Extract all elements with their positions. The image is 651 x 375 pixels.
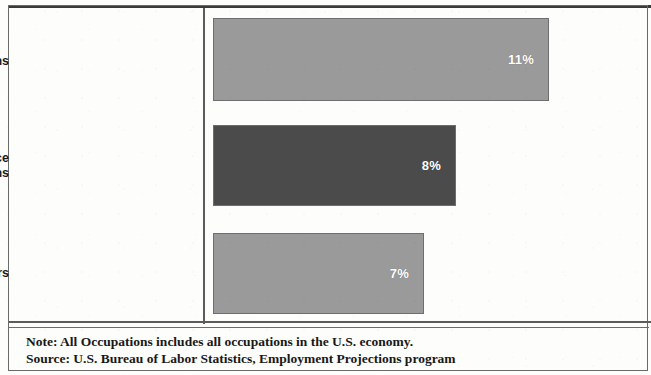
bar-protective-service-occupations[interactable]: 8%	[213, 125, 456, 206]
chart-notes: Note: All Occupations includes all occup…	[26, 333, 626, 367]
bar-total-all-occupations[interactable]: 11%	[213, 18, 549, 101]
bar-value-label: 8%	[422, 158, 455, 173]
category-label-line2: Occupations	[0, 166, 9, 181]
value-axis-line	[203, 8, 205, 324]
category-label-line1: Protective Service	[0, 151, 9, 166]
category-axis-line	[9, 321, 651, 323]
chart-figure: Total, All Occupations 11% Protective Se…	[0, 0, 651, 375]
source-text: Source: U.S. Bureau of Labor Statistics,…	[26, 350, 626, 367]
category-label-protective-service-occupations: Protective Service Occupations	[0, 151, 9, 181]
category-label-line1: Firefighters	[0, 266, 9, 281]
bar-value-label: 7%	[390, 266, 423, 281]
bar-value-label: 11%	[508, 52, 548, 67]
category-label-total-all-occupations: Total, All Occupations	[0, 54, 9, 69]
note-text: Note: All Occupations includes all occup…	[26, 333, 626, 350]
plot-area: Total, All Occupations 11% Protective Se…	[9, 8, 651, 322]
category-label-firefighters: Firefighters	[0, 266, 9, 281]
category-label-line1: Total, All Occupations	[0, 54, 9, 69]
note-separator	[9, 327, 649, 328]
bar-firefighters[interactable]: 7%	[213, 233, 424, 314]
